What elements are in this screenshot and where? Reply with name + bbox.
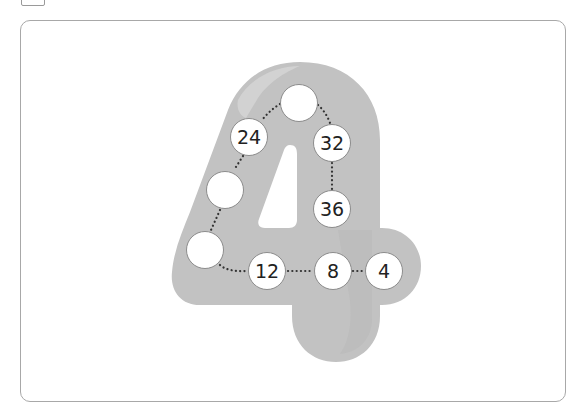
number-circle-8: 8 [314,252,352,290]
number-circle-12: 12 [248,252,286,290]
number-circle-32: 32 [313,124,351,162]
number-circle-36: 36 [313,190,351,228]
number-circle-left-lower-empty[interactable] [186,231,224,269]
number-circle-24: 24 [230,118,268,156]
number-circle-left-upper-empty[interactable] [206,171,244,209]
number-circle-4: 4 [365,252,403,290]
digit-four-shape [0,0,580,416]
number-circle-top-empty[interactable] [280,84,318,122]
